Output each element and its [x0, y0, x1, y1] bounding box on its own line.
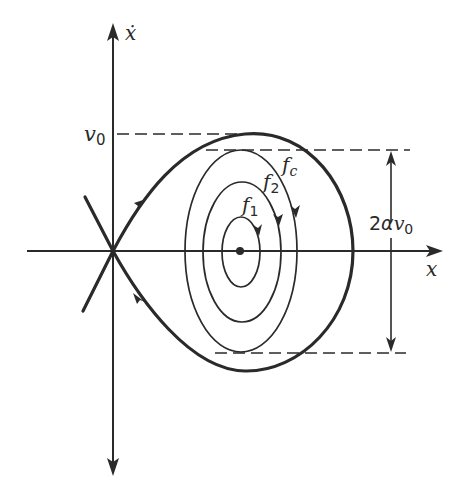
separatrix-upper-arrow-icon: [134, 199, 146, 211]
f1-label-sub: 1: [249, 203, 258, 219]
separatrix-loop: [113, 134, 353, 371]
v0-label-sub: 0: [96, 131, 106, 149]
fc-label: fc: [280, 153, 297, 179]
f1-label: f1: [240, 193, 258, 219]
y-axis-label: ẋ: [125, 21, 136, 45]
phase-plane-diagram: ẋ x v0 f1 f2 fc 2αv0: [0, 0, 453, 491]
fc-label-sub: c: [289, 163, 297, 179]
saddle-separatrices: [83, 197, 113, 311]
saddle-line-descending: [85, 197, 113, 251]
amplitude-label-alpha: α: [381, 212, 394, 234]
v0-label: v0: [84, 122, 105, 149]
center-equilibrium-dot: [236, 247, 244, 255]
saddle-line-ascending: [83, 251, 113, 311]
x-axis: [27, 245, 443, 257]
amplitude-label: 2αv0: [369, 212, 413, 237]
f2-label-sub: 2: [270, 180, 279, 196]
x-axis-label: x: [426, 257, 437, 281]
amplitude-label-prefix: 2: [369, 212, 381, 234]
orbit-fc-arrow-icon: [290, 205, 300, 218]
v0-label-main: v: [84, 122, 96, 146]
amplitude-label-v: v: [394, 212, 405, 234]
amplitude-label-sub: 0: [404, 221, 413, 237]
